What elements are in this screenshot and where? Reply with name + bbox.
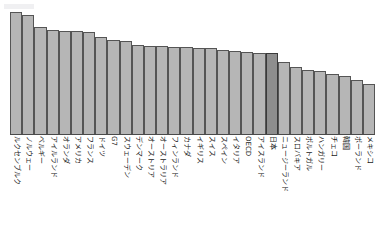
category-label: ハンガリー — [317, 136, 324, 171]
category-label: ニュージーランド — [280, 136, 287, 192]
bar-slot — [217, 12, 229, 135]
bar-slot — [95, 12, 107, 135]
category-label-slot: スイス — [205, 136, 217, 236]
category-label: アメリカ — [73, 136, 80, 164]
bar-series — [10, 12, 375, 135]
bar[interactable] — [71, 31, 83, 135]
category-label-slot: ルクセンブルク — [10, 136, 22, 236]
category-label: イタリア — [232, 136, 239, 164]
bar[interactable] — [229, 51, 241, 135]
bar-slot — [34, 12, 46, 135]
bar-slot — [47, 12, 59, 135]
category-label: OECD — [244, 136, 251, 156]
plot-area — [10, 12, 375, 135]
bar[interactable] — [83, 32, 95, 135]
bar-slot — [229, 12, 241, 135]
bar[interactable] — [302, 70, 314, 135]
category-label-slot: オーストラリア — [156, 136, 168, 236]
bar[interactable] — [22, 15, 34, 135]
category-label-slot: デンマーク — [132, 136, 144, 236]
category-label: メキシコ — [366, 136, 373, 164]
category-label-slot: ニュージーランド — [278, 136, 290, 236]
bar[interactable] — [351, 80, 363, 135]
category-label: 日本 — [268, 136, 275, 150]
category-label: スウェーデン — [122, 136, 129, 178]
bar[interactable] — [290, 67, 302, 135]
category-label-slot: フランス — [83, 136, 95, 236]
category-label-slot: フィンランド — [168, 136, 180, 236]
category-label-slot: ノルウェー — [22, 136, 34, 236]
category-label-slot: ポルトガル — [302, 136, 314, 236]
bar[interactable] — [120, 41, 132, 135]
bar[interactable] — [34, 27, 46, 135]
bar[interactable] — [59, 31, 71, 135]
bar[interactable] — [156, 46, 168, 135]
bar-slot — [83, 12, 95, 135]
bar[interactable] — [47, 30, 59, 135]
category-label: オーストリア — [146, 136, 153, 178]
category-label: イギリス — [195, 136, 202, 164]
category-label-slot: OECD — [241, 136, 253, 236]
bar-slot — [10, 12, 22, 135]
category-label-slot: 日本 — [266, 136, 278, 236]
category-label: ルクセンブルク — [13, 136, 20, 185]
bar-slot — [59, 12, 71, 135]
category-label: オーストラリア — [159, 136, 166, 185]
bar[interactable] — [180, 47, 192, 135]
bar-highlighted[interactable] — [266, 53, 278, 135]
bar[interactable] — [107, 40, 119, 135]
bar[interactable] — [241, 52, 253, 135]
category-label-slot: オーストリア — [144, 136, 156, 236]
bar-slot — [156, 12, 168, 135]
bar[interactable] — [144, 46, 156, 135]
category-label: フランス — [86, 136, 93, 164]
bar-slot — [290, 12, 302, 135]
category-label: スロバキア — [293, 136, 300, 171]
category-label-slot: ハンガリー — [314, 136, 326, 236]
category-label-slot: オランダ — [59, 136, 71, 236]
bar-slot — [266, 12, 278, 135]
bar[interactable] — [205, 48, 217, 135]
category-label: アイルランド — [49, 136, 56, 178]
category-label: ポルトガル — [305, 136, 312, 171]
category-axis-labels: ルクセンブルクノルウェーベルギーアイルランドオランダアメリカフランスドイツG7ス… — [10, 136, 375, 236]
category-label: ポーランド — [353, 136, 360, 171]
category-label: スペイン — [220, 136, 227, 164]
bar-slot — [22, 12, 34, 135]
bar-slot — [241, 12, 253, 135]
bar[interactable] — [95, 37, 107, 135]
clipped-header-block — [4, 4, 34, 9]
bar[interactable] — [253, 53, 265, 135]
bar[interactable] — [278, 62, 290, 135]
category-label: スイス — [207, 136, 214, 157]
bar[interactable] — [217, 50, 229, 135]
bar[interactable] — [193, 48, 205, 135]
bar-slot — [132, 12, 144, 135]
bar-slot — [326, 12, 338, 135]
bar-slot — [278, 12, 290, 135]
bar[interactable] — [339, 76, 351, 135]
category-label-slot: イギリス — [193, 136, 205, 236]
category-label: アイスランド — [256, 136, 263, 178]
category-label: オランダ — [61, 136, 68, 164]
category-label-slot: チェコ — [326, 136, 338, 236]
bar-slot — [205, 12, 217, 135]
bar[interactable] — [314, 71, 326, 135]
category-label: フィンランド — [171, 136, 178, 178]
bar-slot — [314, 12, 326, 135]
category-label: ドイツ — [98, 136, 105, 157]
bar[interactable] — [326, 74, 338, 136]
bar[interactable] — [168, 47, 180, 135]
bar-slot — [339, 12, 351, 135]
category-label: ベルギー — [37, 136, 44, 164]
bar[interactable] — [363, 84, 375, 135]
category-label-slot: カナダ — [180, 136, 192, 236]
bar-slot — [71, 12, 83, 135]
category-label: デンマーク — [134, 136, 141, 171]
bar-slot — [302, 12, 314, 135]
bar[interactable] — [10, 12, 22, 135]
category-label-slot: アイルランド — [47, 136, 59, 236]
bar[interactable] — [132, 45, 144, 135]
bar-slot — [351, 12, 363, 135]
bar-slot — [107, 12, 119, 135]
